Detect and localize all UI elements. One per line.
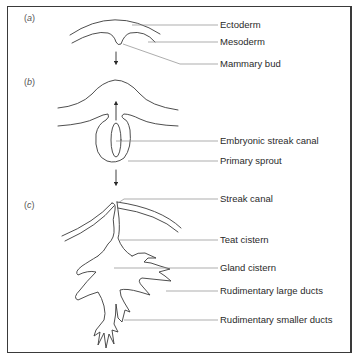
gland-cistern: [75, 253, 171, 348]
embryonic-streak-canal-shape: [111, 123, 121, 157]
skin-right-outer: [117, 202, 181, 228]
skin-left-outer: [62, 203, 112, 236]
leader-streak-canal: [118, 199, 218, 203]
label-embryonic-streak-canal: Embryonic streak canal: [220, 135, 319, 146]
ectoderm-curve: [70, 20, 160, 35]
label-rudimentary-large-ducts: Rudimentary large ducts: [220, 285, 323, 296]
label-gland-cistern: Gland cistern: [220, 262, 276, 273]
label-mesoderm: Mesoderm: [220, 36, 265, 47]
ectoderm-bulge: [58, 80, 178, 110]
teat-cistern-left: [98, 203, 115, 256]
label-teat-cistern: Teat cistern: [220, 234, 269, 245]
label-primary-sprout: Primary sprout: [220, 155, 282, 166]
skin-left-inner: [65, 206, 114, 241]
label-streak-canal: Streak canal: [220, 193, 273, 204]
skin-right-inner: [118, 208, 178, 232]
label-ectoderm: Ectoderm: [220, 19, 261, 30]
mammary-development-diagram: [0, 0, 354, 360]
label-mammary-bud: Mammary bud: [220, 58, 281, 69]
label-rudimentary-smaller-ducts: Rudimentary smaller ducts: [220, 314, 332, 325]
leader-mammary-bud: [123, 44, 218, 64]
mesoderm-curve: [72, 32, 155, 44]
